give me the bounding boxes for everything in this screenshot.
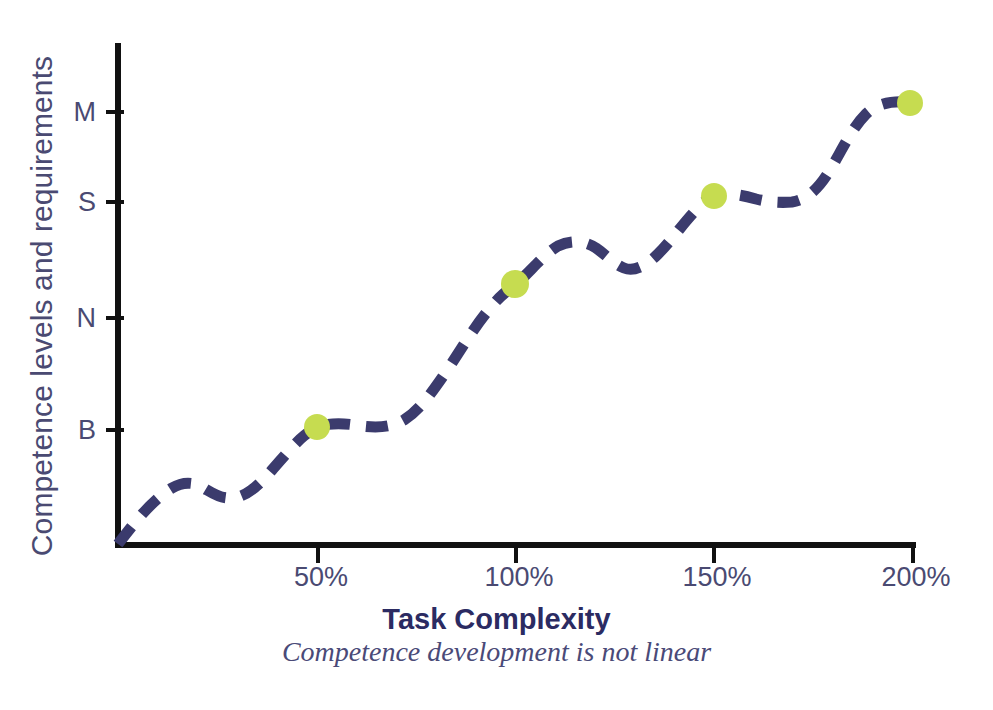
data-point-marker bbox=[501, 270, 529, 298]
y-tick-label-b: B bbox=[56, 415, 96, 446]
y-tick-label-n: N bbox=[56, 303, 96, 334]
data-point-marker bbox=[304, 414, 330, 440]
data-point-markers bbox=[304, 90, 923, 440]
y-tick-label-s: S bbox=[56, 187, 96, 218]
chart-caption: Task Complexity Competence development i… bbox=[0, 604, 993, 669]
x-tick-label-200: 200% bbox=[856, 562, 976, 593]
x-tick-label-50: 50% bbox=[261, 562, 381, 593]
chart-figure: Competence levels and requirements M S N… bbox=[0, 0, 993, 710]
x-tick-label-100: 100% bbox=[459, 562, 579, 593]
chart-subtitle: Competence development is not linear bbox=[0, 636, 993, 668]
y-tick-label-m: M bbox=[56, 97, 96, 128]
data-point-marker bbox=[701, 183, 727, 209]
competence-curve bbox=[118, 102, 906, 544]
chart-title: Task Complexity bbox=[0, 604, 993, 634]
data-point-marker bbox=[897, 90, 923, 116]
x-tick-label-150: 150% bbox=[657, 562, 777, 593]
